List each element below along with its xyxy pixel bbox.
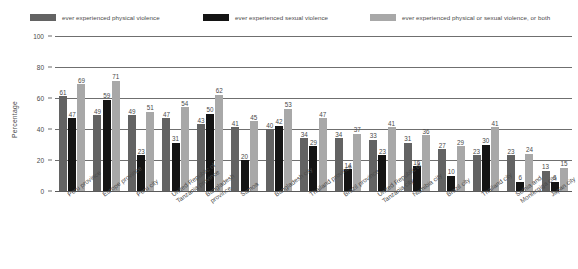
y-tick-60 [48,98,52,99]
bar-value-label: 37 [354,126,361,133]
bar-value-label: 42 [276,118,283,125]
bar: 61 [59,96,67,191]
legend-swatch-sexual-violence [203,14,229,21]
bar-value-label: 47 [319,111,326,118]
bar-value-label: 41 [492,120,499,127]
bar-value-label: 31 [172,135,179,142]
bar-value-label: 59 [103,92,110,99]
bar-value-label: 36 [423,128,430,135]
y-tick-100 [48,36,52,37]
y-tick-20 [48,160,52,161]
bar-value-label: 29 [310,139,317,146]
y-tick-label-60: 60 [37,95,44,102]
bar-value-label: 43 [197,117,204,124]
bar-value-label: 47 [69,111,76,118]
bar-value-label: 51 [147,104,154,111]
bar-value-label: 6 [519,174,523,181]
y-tick-80 [48,67,52,68]
bar-value-label: 41 [232,120,239,127]
y-tick-label-0: 0 [40,188,44,195]
bar-value-label: 54 [181,100,188,107]
bar: 42 [275,126,283,191]
bar-value-label: 71 [112,73,119,80]
y-axis-title: Percentage [11,90,18,150]
legend-swatch-physical-violence [30,14,56,21]
bar-value-label: 24 [526,146,533,153]
bar-value-label: 47 [163,111,170,118]
legend-label-physical-or-sexual-violence: ever experienced physical or sexual viol… [402,14,550,21]
chart-legend: ever experienced physical violence ever … [0,11,578,25]
y-tick-label-80: 80 [37,64,44,71]
y-tick-label-40: 40 [37,126,44,133]
legend-label-physical-violence: ever experienced physical violence [62,14,160,21]
bar-value-label: 61 [60,89,67,96]
bar-value-label: 34 [335,131,342,138]
bar: 47 [68,118,76,191]
legend-item-sexual-violence: ever experienced sexual violence [203,11,328,23]
bar-value-label: 29 [457,139,464,146]
bar-value-label: 50 [207,106,214,113]
legend-item-physical-violence: ever experienced physical violence [30,11,160,23]
bar-chart: ever experienced physical violence ever … [0,0,578,269]
bar-value-label: 41 [388,120,395,127]
bar-value-label: 49 [128,108,135,115]
bar-value-label: 62 [216,87,223,94]
bar-value-label: 31 [404,135,411,142]
legend-swatch-physical-or-sexual-violence [370,14,396,21]
y-tick-label-20: 20 [37,157,44,164]
y-tick-40 [48,129,52,130]
y-axis: Percentage 020406080100 [0,36,52,191]
bar-value-label: 33 [370,132,377,139]
x-axis-labels: Peru provinceEurope provincePeru cityUni… [55,192,578,269]
bar: 71 [112,81,120,191]
bar: 69 [77,84,85,191]
bar-value-label: 45 [250,114,257,121]
legend-label-sexual-violence: ever experienced sexual violence [235,14,328,21]
bar: 59 [103,100,111,191]
bar-value-label: 30 [482,137,489,144]
bar-value-label: 40 [266,122,273,129]
y-tick-0 [48,191,52,192]
bar-value-label: 69 [78,77,85,84]
bar-value-label: 49 [94,108,101,115]
y-tick-label-100: 100 [33,33,44,40]
legend-item-physical-or-sexual-violence: ever experienced physical or sexual viol… [370,11,550,23]
bar-group: 614769 [55,36,89,191]
bar-value-label: 53 [285,101,292,108]
bar-value-label: 23 [379,148,386,155]
bar-value-label: 34 [301,131,308,138]
bar-value-label: 23 [138,148,145,155]
